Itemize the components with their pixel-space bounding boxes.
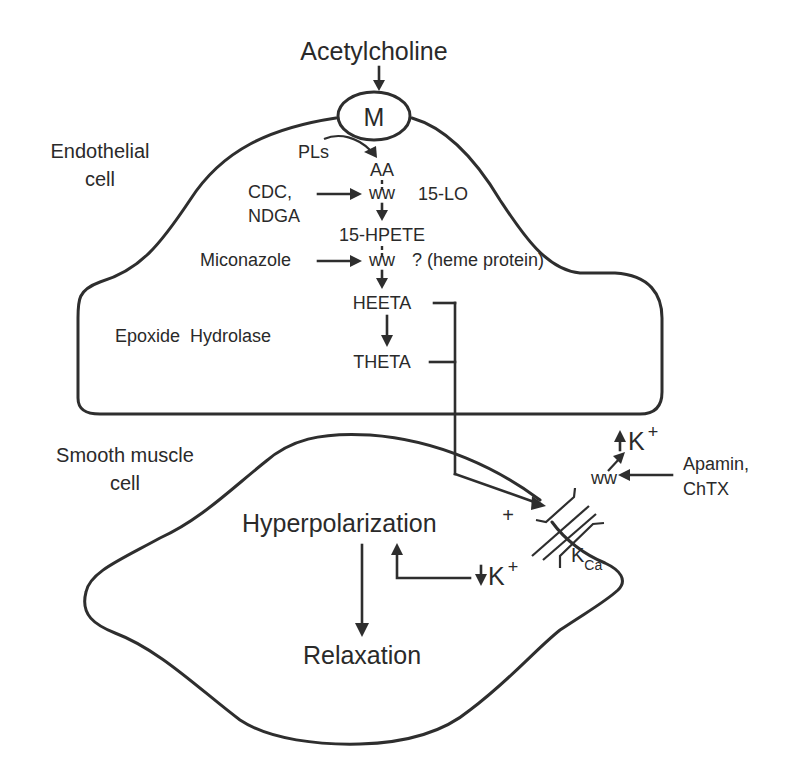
inhibitor-cdc-label: CDC, [248,182,292,202]
hyperpolarization-to-relaxation-arrow-icon [355,545,369,637]
enzyme-15lo-label: 15-LO [418,184,468,204]
smooth-muscle-cell-label-line2: cell [110,472,140,494]
phospholipids-label: PLs [298,142,329,162]
15hpete-label: 15-HPETE [339,225,425,245]
enzyme-heme-protein-icon: ww [368,250,396,270]
relaxation-label: Relaxation [303,641,421,669]
to-heeta-arrow-icon [376,271,388,289]
enzyme-15lo-icon: ww [368,183,396,203]
endothelial-cell-label: Endothelial [51,140,150,162]
to-15hpete-arrow-icon [376,204,388,221]
kca-channel-label: KCa [571,544,602,573]
heeta-label: HEETA [353,293,412,313]
eet-pathway-diagram: M Acetylcholine Endothelial cell PLs AA … [0,0,800,779]
k-increase-arrow-icon [614,430,626,450]
activation-sign: + [502,504,514,526]
k-decrease-arrow-icon [475,566,487,586]
heeta-to-theta-arrow-icon [381,316,393,347]
smooth-muscle-cell-label: Smooth muscle [56,444,194,466]
smooth-muscle-cell-outline [85,434,623,744]
miconazole-inhibition-arrow-icon [318,255,362,267]
cdc-ndga-inhibition-arrow-icon [318,188,362,200]
epoxide-hydrolase-label: Epoxide Hydrolase [115,326,271,346]
endothelial-cell-label-line2: cell [85,168,115,190]
acetylcholine-arrow-icon [373,67,385,91]
apamin-chtx-block-arrow-icon [618,469,672,481]
k-to-hyperpolarization-arrow-icon [391,543,470,578]
receptor-label: M [364,103,385,131]
channel-regulatory-site-icon: ww [590,468,618,488]
k-intracellular-label: K+ [488,557,518,590]
arachidonic-acid-label: AA [370,160,394,180]
theta-label: THETA [353,352,411,372]
apamin-label: Apamin, [683,454,749,474]
inhibitor-ndga-label: NDGA [248,206,300,226]
enzyme-heme-protein-label: ? (heme protein) [412,250,544,270]
k-efflux-label: K+ [628,422,658,455]
chtx-label: ChTX [683,479,729,499]
eicosanoid-signal-connector [430,303,546,510]
hyperpolarization-label: Hyperpolarization [242,509,437,537]
inhibitor-miconazole-label: Miconazole [200,250,291,270]
acetylcholine-label: Acetylcholine [300,37,447,65]
muscarinic-receptor: M [338,92,410,140]
